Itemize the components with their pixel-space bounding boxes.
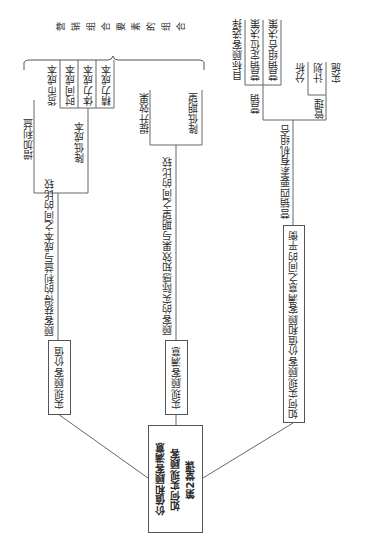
- node-increase-benefit: 增加利益: [23, 118, 35, 160]
- marketing-item: 营销组合决策: [268, 18, 280, 81]
- cost-item: 体力成本: [83, 64, 95, 106]
- management-item: 实施: [331, 62, 343, 83]
- marketing-item: 营销定位决策: [250, 18, 262, 81]
- marketing-item: 目标顾客选择: [232, 18, 244, 81]
- cost-item: 时间成本: [65, 64, 77, 106]
- node-lower-expectation: 降低期望: [188, 92, 200, 134]
- branch-relation-label: 顾客获得的利益与成本之间的比较: [44, 196, 56, 336]
- management-item: 计划: [313, 62, 325, 83]
- management-item: 分析: [295, 62, 307, 83]
- branch-label: 实现顾客价值: [54, 346, 66, 409]
- node-management: 管理: [314, 98, 326, 119]
- cost-item: 精力成本: [101, 64, 113, 106]
- node-marketing: 营销: [250, 93, 262, 114]
- branch-relation-label: 营销四要素有机组合: [280, 124, 292, 219]
- bracket-text: 营销组合要素的组合: [56, 20, 176, 32]
- branch-box-customer-satisfaction: 实现顾客满意: [165, 340, 188, 415]
- branch-label: 实现顾客满意: [171, 346, 183, 409]
- branch-label: 如何实现顾客价值和顾客满意之间的平衡: [288, 230, 300, 419]
- node-reduce-cost: 降低成本: [74, 121, 86, 163]
- branch-box-balance: 如何实现顾客价值和顾客满意之间的平衡: [283, 225, 305, 423]
- branch-relation-label: 顾客的实际感知效果与期望之间的比较: [162, 150, 174, 335]
- node-improve-effect: 提升效果: [139, 92, 151, 134]
- cost-item: 货币成本: [47, 64, 59, 106]
- branch-box-customer-value: 实现顾客价值: [48, 340, 71, 415]
